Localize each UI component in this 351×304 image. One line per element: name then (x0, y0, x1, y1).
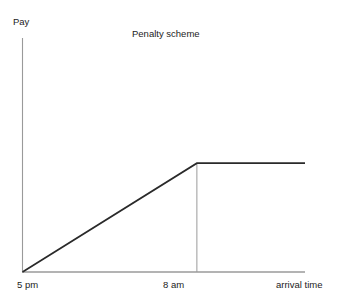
x-axis-label: arrival time (276, 280, 322, 290)
y-axis-label: Pay (13, 17, 29, 27)
chart-title: Penalty scheme (132, 29, 200, 39)
x-tick-label-8am: 8 am (163, 280, 184, 290)
x-tick-label-5pm: 5 pm (17, 280, 38, 290)
pay-series-line (23, 163, 306, 272)
chart-container: Penalty scheme Pay arrival time 5 pm 8 a… (0, 0, 351, 304)
plot-area (0, 0, 351, 304)
